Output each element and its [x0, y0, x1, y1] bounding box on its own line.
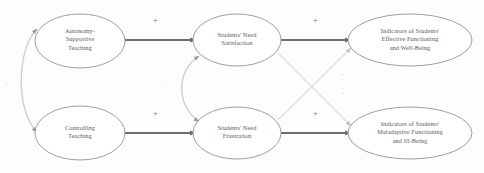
node-students-need-frustration: [193, 107, 281, 159]
path-diagram-figure: Autonomy- Supportive Teaching Controllin…: [0, 0, 484, 173]
node-indicators-effective-functioning: [348, 14, 472, 66]
node-controlling-teaching: [35, 106, 125, 160]
sign-autonomy-to-satisfaction: +: [153, 17, 158, 25]
diagram-canvas: [0, 0, 484, 173]
path-needs-correlation: [182, 56, 199, 122]
sign-teaching-styles-correlation: -: [6, 79, 8, 87]
node-shape-group: [35, 14, 472, 160]
sign-frustration-to-effective: -: [342, 89, 344, 97]
node-students-need-satisfaction: [193, 14, 281, 66]
node-autonomy-supportive-teaching: [35, 14, 125, 68]
sign-controlling-to-frustration: +: [153, 110, 158, 118]
path-teaching-styles-correlation: [21, 29, 37, 132]
sign-frustration-to-maladaptive: +: [313, 110, 318, 118]
sign-satisfaction-to-maladaptive: -: [341, 70, 343, 78]
sign-needs-correlation: -: [161, 79, 163, 87]
sign-satisfaction-to-effective: +: [313, 17, 318, 25]
node-indicators-maladaptive-functioning: [348, 107, 472, 159]
